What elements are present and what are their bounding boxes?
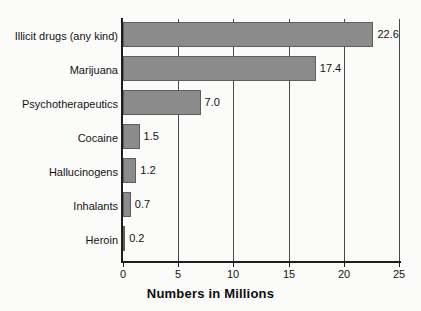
bar-cocaine[interactable] xyxy=(123,124,140,149)
bar-marijuana[interactable] xyxy=(123,56,316,81)
bar-row: 22.6 xyxy=(123,19,400,53)
x-tick-label-5: 5 xyxy=(175,268,181,280)
x-axis-line xyxy=(121,261,401,263)
bar-value-marijuana: 17.4 xyxy=(316,56,341,81)
bar-value-illicit-drugs-any-kind: 22.6 xyxy=(373,22,398,47)
bar-value-cocaine: 1.5 xyxy=(140,124,159,149)
bar-psychotherapeutics[interactable] xyxy=(123,90,201,115)
bar-value-psychotherapeutics: 7.0 xyxy=(201,90,220,115)
tick-mark-25 xyxy=(399,262,400,267)
category-label-psychotherapeutics: Psychotherapeutics xyxy=(22,87,118,121)
tick-mark-20 xyxy=(344,262,345,267)
x-tick-label-25: 25 xyxy=(393,268,405,280)
tick-mark-0 xyxy=(123,262,124,267)
bar-row: 17.4 xyxy=(123,53,400,87)
category-label-cocaine: Cocaine xyxy=(78,121,118,155)
tick-mark-5 xyxy=(178,262,179,267)
bar-illicit-drugs-any-kind[interactable] xyxy=(123,22,373,47)
x-tick-label-15: 15 xyxy=(283,268,295,280)
category-label-illicit-drugs-any-kind: Illicit drugs (any kind) xyxy=(15,19,118,53)
x-tick-label-10: 10 xyxy=(227,268,239,280)
bars-layer: 22.6 17.4 7.0 1.5 1.2 0.7 0.2 xyxy=(123,19,400,262)
bar-row: 0.7 xyxy=(123,189,400,223)
x-tick-label-20: 20 xyxy=(338,268,350,280)
bar-row: 1.5 xyxy=(123,121,400,155)
bar-row: 7.0 xyxy=(123,87,400,121)
bar-row: 0.2 xyxy=(123,223,400,257)
bar-inhalants[interactable] xyxy=(123,192,131,217)
bar-row: 1.2 xyxy=(123,155,400,189)
tick-mark-15 xyxy=(289,262,290,267)
tick-mark-10 xyxy=(233,262,234,267)
x-axis-title: Numbers in Millions xyxy=(0,286,421,301)
bar-chart: 22.6 17.4 7.0 1.5 1.2 0.7 0.2 xyxy=(0,0,421,311)
category-axis-labels: Illicit drugs (any kind) Marijuana Psych… xyxy=(0,19,118,262)
bar-value-heroin: 0.2 xyxy=(125,226,144,251)
category-label-heroin: Heroin xyxy=(86,223,118,257)
bar-hallucinogens[interactable] xyxy=(123,158,136,183)
y-axis-line xyxy=(121,18,123,263)
bar-value-inhalants: 0.7 xyxy=(131,192,150,217)
category-label-hallucinogens: Hallucinogens xyxy=(49,155,118,189)
category-label-inhalants: Inhalants xyxy=(73,189,118,223)
category-label-marijuana: Marijuana xyxy=(70,53,118,87)
x-tick-label-0: 0 xyxy=(120,268,126,280)
bar-value-hallucinogens: 1.2 xyxy=(136,158,155,183)
